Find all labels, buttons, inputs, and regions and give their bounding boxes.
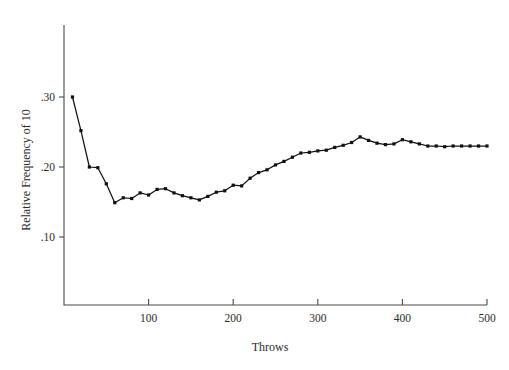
data-point-marker: [249, 177, 252, 180]
x-tick-label: 500: [478, 312, 496, 324]
data-point-marker: [299, 151, 302, 154]
data-point-marker: [418, 142, 421, 145]
data-point-marker: [198, 198, 201, 201]
data-point-marker: [367, 139, 370, 142]
data-point-marker: [122, 196, 125, 199]
data-point-marker: [88, 165, 91, 168]
x-axis-title: Throws: [252, 340, 289, 354]
data-point-marker: [468, 144, 471, 147]
data-point-marker: [139, 191, 142, 194]
data-point-marker: [172, 191, 175, 194]
x-tick-label: 400: [394, 312, 412, 324]
chart-tick-marks: [59, 97, 487, 305]
data-point-marker: [460, 144, 463, 147]
data-point-marker: [265, 168, 268, 171]
x-tick-label: 100: [140, 312, 158, 324]
data-point-marker: [452, 144, 455, 147]
data-point-marker: [232, 184, 235, 187]
data-point-marker: [325, 149, 328, 152]
data-point-marker: [392, 142, 395, 145]
data-point-marker: [282, 160, 285, 163]
data-point-marker: [308, 151, 311, 154]
data-point-marker: [257, 171, 260, 174]
data-point-marker: [130, 197, 133, 200]
data-point-marker: [409, 140, 412, 143]
x-axis-tick-labels: 100200300400500: [140, 312, 496, 324]
data-point-marker: [155, 188, 158, 191]
data-point-marker: [71, 95, 74, 98]
data-point-marker: [189, 196, 192, 199]
y-tick-label: .30: [41, 91, 56, 103]
data-point-marker: [96, 166, 99, 169]
data-point-marker: [359, 135, 362, 138]
y-tick-label: .10: [41, 231, 56, 243]
line-chart: 100200300400500 .10.20.30 Throws Relativ…: [0, 0, 509, 370]
y-axis-title: Relative Frequency of 10: [19, 109, 33, 231]
data-point-marker: [333, 146, 336, 149]
data-series-relative-frequency: [71, 95, 489, 204]
data-point-marker: [215, 191, 218, 194]
data-point-marker: [147, 193, 150, 196]
data-point-marker: [113, 201, 116, 204]
data-point-marker: [274, 163, 277, 166]
data-point-marker: [316, 149, 319, 152]
x-tick-label: 200: [225, 312, 243, 324]
chart-figure: 100200300400500 .10.20.30 Throws Relativ…: [0, 0, 509, 370]
data-point-marker: [223, 189, 226, 192]
data-point-marker: [401, 138, 404, 141]
x-tick-label: 300: [309, 312, 327, 324]
data-point-marker: [206, 195, 209, 198]
data-point-marker: [485, 144, 488, 147]
data-point-marker: [342, 144, 345, 147]
data-point-marker: [105, 182, 108, 185]
data-point-marker: [291, 156, 294, 159]
data-point-marker: [477, 144, 480, 147]
y-axis-tick-labels: .10.20.30: [41, 91, 56, 243]
data-point-marker: [426, 144, 429, 147]
data-point-marker: [181, 194, 184, 197]
data-point-marker: [375, 142, 378, 145]
data-point-marker: [79, 129, 82, 132]
data-point-marker: [350, 141, 353, 144]
data-point-marker: [240, 184, 243, 187]
data-point-marker: [443, 145, 446, 148]
data-point-marker: [435, 144, 438, 147]
data-point-marker: [164, 187, 167, 190]
data-line-path: [72, 97, 487, 203]
y-tick-label: .20: [41, 161, 56, 173]
data-point-marker: [384, 143, 387, 146]
